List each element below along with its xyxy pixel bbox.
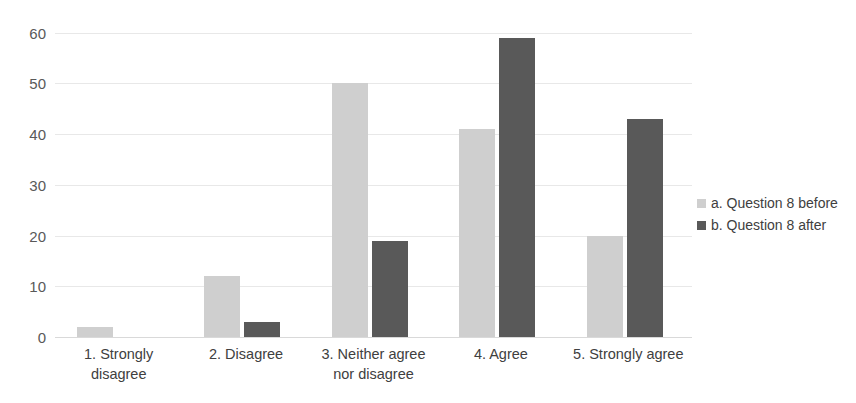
bar (244, 322, 280, 337)
bar-group (55, 0, 182, 337)
x-axis: 1. Stronglydisagree2. Disagree3. Neither… (55, 344, 692, 400)
x-axis-category-label: 3. Neither agreenor disagree (310, 344, 437, 384)
x-axis-category-label-line: 2. Disagree (182, 344, 309, 364)
x-axis-category-label-line: 5. Strongly agree (565, 344, 692, 364)
y-axis-tick-label: 40 (6, 126, 46, 143)
y-axis-tick-label: 20 (6, 227, 46, 244)
legend-item-label: a. Question 8 before (711, 195, 838, 211)
x-axis-category-label: 1. Stronglydisagree (55, 344, 182, 384)
legend-item[interactable]: b. Question 8 after (697, 214, 852, 236)
x-axis-category-label: 2. Disagree (182, 344, 309, 364)
y-axis-tick-label: 50 (6, 75, 46, 92)
x-axis-category-label-line: 1. Strongly (55, 344, 182, 364)
bar-group (565, 0, 692, 337)
y-axis: 010203040506070 (0, 0, 46, 337)
legend-swatch-icon (697, 221, 706, 230)
bar (459, 129, 495, 337)
gridline (55, 337, 692, 338)
y-axis-tick-label: 60 (6, 24, 46, 41)
bar (627, 119, 663, 337)
y-axis-tick-label: 0 (6, 329, 46, 346)
bar (499, 38, 535, 337)
legend-swatch-icon (697, 199, 706, 208)
x-axis-category-label: 4. Agree (437, 344, 564, 364)
x-axis-category-label-line: nor disagree (310, 364, 437, 384)
bar (587, 236, 623, 337)
y-axis-tick-label: 10 (6, 278, 46, 295)
x-axis-category-label-line: 4. Agree (437, 344, 564, 364)
bar (204, 276, 240, 337)
legend-item-label: b. Question 8 after (711, 217, 826, 233)
bar-group (437, 0, 564, 337)
bar-group (182, 0, 309, 337)
bar (332, 83, 368, 337)
x-axis-category-label-line: disagree (55, 364, 182, 384)
x-axis-category-label-line: 3. Neither agree (310, 344, 437, 364)
bar (77, 327, 113, 337)
y-axis-tick-label: 30 (6, 176, 46, 193)
bar-group (310, 0, 437, 337)
chart-legend: a. Question 8 beforeb. Question 8 after (697, 192, 852, 236)
x-axis-category-label: 5. Strongly agree (565, 344, 692, 364)
bars-layer (55, 0, 692, 337)
legend-item[interactable]: a. Question 8 before (697, 192, 852, 214)
bar-chart: 010203040506070 1. Stronglydisagree2. Di… (0, 0, 856, 403)
bar (372, 241, 408, 337)
